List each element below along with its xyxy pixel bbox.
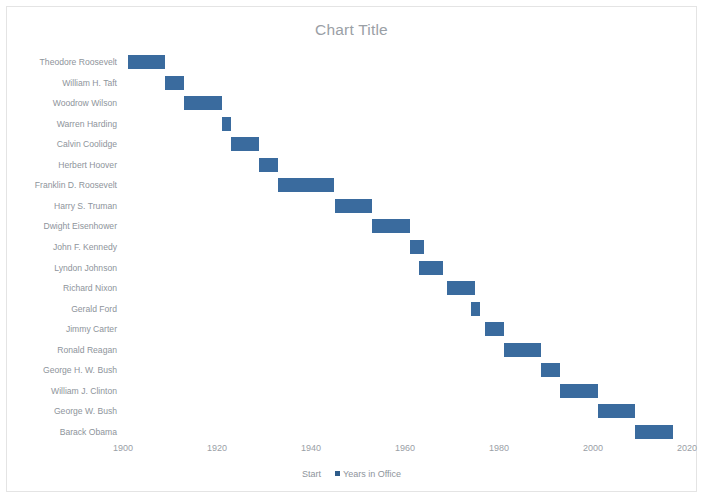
x-axis-tick-label: 1920 (207, 443, 227, 453)
bar (222, 117, 231, 131)
category-label: William J. Clinton (51, 386, 117, 396)
category-label: Barack Obama (60, 427, 117, 437)
bar (541, 363, 560, 377)
chart-container: Chart Title Theodore RooseveltWilliam H.… (0, 0, 703, 500)
legend-item[interactable]: Start (302, 469, 321, 479)
bar (598, 404, 636, 418)
x-axis-tick-label: 2020 (677, 443, 697, 453)
category-label: Ronald Reagan (57, 345, 117, 355)
category-label: Jimmy Carter (66, 324, 117, 334)
legend-label: Start (302, 469, 321, 479)
bar (410, 240, 424, 254)
bar (471, 302, 480, 316)
legend-item[interactable]: Years in Office (335, 469, 401, 479)
bar (485, 322, 504, 336)
category-label: Harry S. Truman (54, 201, 117, 211)
bar (635, 425, 673, 439)
bar (184, 96, 222, 110)
x-axis-tick-label: 1980 (489, 443, 509, 453)
category-label: Franklin D. Roosevelt (35, 180, 117, 190)
category-label: Herbert Hoover (58, 160, 117, 170)
chart-legend: StartYears in Office (0, 468, 703, 479)
category-label: William H. Taft (62, 78, 117, 88)
category-label: George H. W. Bush (43, 365, 117, 375)
bar (231, 137, 259, 151)
category-label: Lyndon Johnson (54, 263, 117, 273)
category-label: Richard Nixon (63, 283, 117, 293)
bar (278, 178, 334, 192)
x-axis-tick-label: 1940 (301, 443, 321, 453)
category-label: Woodrow Wilson (53, 98, 117, 108)
bar (419, 261, 443, 275)
category-label: Dwight Eisenhower (43, 221, 117, 231)
x-axis-tick-label: 2000 (583, 443, 603, 453)
legend-swatch-icon (335, 471, 340, 476)
category-label: Theodore Roosevelt (40, 57, 117, 67)
bar (165, 76, 184, 90)
chart-title: Chart Title (0, 21, 703, 39)
category-label: George W. Bush (54, 406, 117, 416)
bar (372, 219, 410, 233)
bar (504, 343, 542, 357)
x-axis-tick-label: 1960 (395, 443, 415, 453)
category-label: Gerald Ford (71, 304, 117, 314)
x-axis-tick-label: 1900 (113, 443, 133, 453)
category-label: John F. Kennedy (53, 242, 117, 252)
category-label: Warren Harding (57, 119, 117, 129)
bar (560, 384, 598, 398)
bar (259, 158, 278, 172)
bar (128, 55, 166, 69)
bar (447, 281, 475, 295)
category-label: Calvin Coolidge (57, 139, 117, 149)
bar (335, 199, 373, 213)
legend-label: Years in Office (343, 469, 401, 479)
